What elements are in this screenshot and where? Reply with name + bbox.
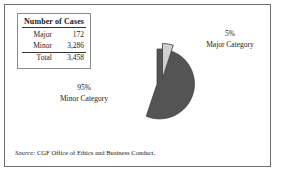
source-text: CGF Office of Ethics and Business Conduc… [35,149,155,156]
label-minor-percent: 95% [43,83,125,94]
label-major-name: Major Category [191,40,269,51]
row-label-minor: Minor [22,41,59,52]
label-minor-name: Minor Category [43,94,125,105]
label-major-percent: 5% [191,29,269,40]
row-value-total: 3,458 [59,52,86,63]
table-row-major: Major 172 [22,30,86,41]
label-minor-category: 95% Minor Category [43,83,125,105]
source-note: Source: CGF Office of Ethics and Busines… [15,149,155,156]
row-label-total: Total [22,52,59,63]
row-label-major: Major [22,30,59,41]
figure-panel: Number of Cases Major 172 Minor 3,286 To… [4,4,271,167]
label-major-category: 5% Major Category [191,29,269,51]
source-label: Source: [15,149,35,156]
table-body: Major 172 Minor 3,286 Total 3,458 [22,30,86,64]
row-value-minor: 3,286 [59,41,86,52]
pie-slice-minor [146,49,194,119]
row-value-major: 172 [59,30,86,41]
table-title: Number of Cases [22,17,86,28]
cases-table: Number of Cases Major 172 Minor 3,286 To… [17,13,91,69]
table-row-total: Total 3,458 [22,52,86,63]
table-row-minor: Minor 3,286 [22,41,86,52]
